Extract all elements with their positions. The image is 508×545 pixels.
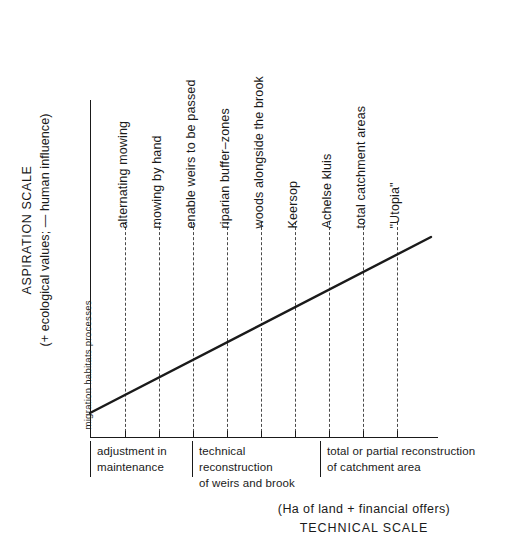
band-label: technical reconstruction of weirs and br…: [199, 444, 320, 492]
band-adjustment-in-maintenance: adjustment in maintenance: [90, 441, 192, 477]
reference-line-alternating-mowing: [125, 222, 126, 437]
y-axis-title-main: ASPIRATION SCALE: [18, 70, 36, 390]
category-label-woods-alongside-brook: woods alongside the brook: [253, 76, 266, 228]
x-axis-tick: [295, 431, 296, 438]
reference-line-mowing-by-hand: [159, 222, 160, 437]
category-label-utopia: "Utopia": [389, 182, 402, 228]
reference-line-utopia: [397, 222, 398, 437]
band-label: adjustment in maintenance: [97, 444, 192, 476]
category-label-achelse-kluis: Achelse kluis: [321, 154, 334, 229]
y-axis-title-sub: (+ ecological values; — human influence): [36, 70, 54, 390]
x-axis-title: (Ha of land + financial offers) TECHNICA…: [228, 500, 500, 538]
x-axis-tick: [397, 431, 398, 438]
reference-line-enable-weirs: [193, 222, 194, 437]
x-axis-title-sub: (Ha of land + financial offers): [228, 500, 500, 519]
x-axis-tick: [227, 431, 228, 438]
category-label-alternating-mowing: alternating mowing: [117, 121, 130, 229]
x-axis-tick: [159, 431, 160, 438]
x-axis-tick: [261, 431, 262, 438]
band-label: total or partial reconstruction of catch…: [327, 444, 492, 476]
category-label-enable-weirs: enable weirs to be passed: [185, 80, 198, 229]
x-axis-tick: [363, 431, 364, 438]
x-axis-tick: [329, 431, 330, 438]
x-axis-tick: [193, 431, 194, 438]
reference-line-total-catchment-areas: [363, 222, 364, 437]
x-axis-title-main: TECHNICAL SCALE: [228, 519, 500, 538]
category-label-total-catchment-areas: total catchment areas: [355, 106, 368, 229]
band-technical-reconstruction: technical reconstruction of weirs and br…: [192, 441, 320, 477]
category-label-riparian-buffer-zones: riparian buffer–zones: [219, 108, 232, 228]
band-total-partial-reconstruction: total or partial reconstruction of catch…: [320, 441, 492, 477]
x-axis-tick: [125, 431, 126, 438]
reference-line-keersop: [295, 222, 296, 437]
category-label-keersop: Keersop: [287, 181, 300, 229]
x-axis-line: [90, 437, 438, 438]
reference-line-woods-alongside-brook: [261, 222, 262, 437]
chart-canvas: ASPIRATION SCALE (+ ecological values; —…: [0, 0, 508, 545]
category-label-mowing-by-hand: mowing by hand: [151, 135, 164, 228]
reference-line-riparian-buffer-zones: [227, 222, 228, 437]
reference-line-achelse-kluis: [329, 222, 330, 437]
y-axis-title: ASPIRATION SCALE (+ ecological values; —…: [18, 70, 58, 390]
origin-annotation: migration habitats processes: [83, 300, 93, 429]
